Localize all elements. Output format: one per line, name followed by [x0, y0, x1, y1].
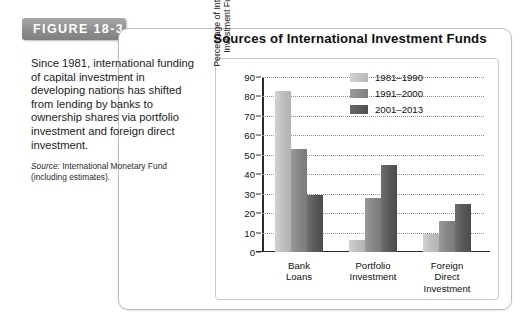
y-tick-mark — [256, 77, 261, 78]
y-tick-label: 80 — [244, 91, 255, 102]
y-tick-mark — [256, 135, 261, 136]
figure-number-label: FIGURE 18-3 — [33, 22, 124, 36]
bar — [365, 198, 381, 252]
caption-text: Since 1981, international funding of cap… — [31, 57, 199, 152]
y-tick-mark — [256, 174, 261, 175]
y-tick-mark — [256, 252, 261, 253]
legend-item: 2001–2013 — [350, 104, 423, 115]
bar — [307, 195, 323, 252]
legend-label: 2001–2013 — [375, 104, 423, 115]
bar — [349, 240, 365, 252]
bar — [455, 204, 471, 252]
y-tick-label: 60 — [244, 130, 255, 141]
y-axis-title: Percentage of International Investment F… — [212, 0, 228, 89]
source-label: Source: — [31, 161, 60, 171]
y-tick-label: 70 — [244, 110, 255, 121]
legend-item: 1981–1990 — [350, 72, 423, 83]
y-tick-label: 40 — [244, 169, 255, 180]
legend-item: 1991–2000 — [350, 88, 423, 99]
chart-card: Percentage of International Investment F… — [215, 58, 499, 300]
bar — [439, 221, 455, 252]
caption-block: Since 1981, international funding of cap… — [31, 57, 199, 182]
chart-title: Sources of International Investment Fund… — [200, 31, 500, 46]
bar — [291, 149, 307, 252]
y-tick-mark — [256, 193, 261, 194]
y-tick-mark — [256, 96, 261, 97]
y-tick-mark — [256, 154, 261, 155]
x-axis-label: Foreign Direct Investment — [399, 260, 495, 294]
y-tick-label: 0 — [250, 247, 255, 258]
bar-group: Bank Loans — [262, 77, 336, 252]
y-tick-label: 90 — [244, 72, 255, 83]
legend-label: 1991–2000 — [375, 88, 423, 99]
y-tick-label: 30 — [244, 188, 255, 199]
y-tick-mark — [256, 213, 261, 214]
legend-label: 1981–1990 — [375, 72, 423, 83]
bar — [381, 165, 397, 252]
y-tick-label: 10 — [244, 227, 255, 238]
bar — [423, 234, 439, 252]
y-tick-label: 50 — [244, 149, 255, 160]
chart-legend: 1981–19901991–20002001–2013 — [350, 72, 423, 115]
y-tick-mark — [256, 115, 261, 116]
legend-swatch-icon — [350, 89, 368, 98]
legend-swatch-icon — [350, 73, 368, 82]
figure-number-tab: FIGURE 18-3 — [22, 18, 126, 40]
source-note: Source: International Monetary Fund (inc… — [31, 161, 199, 182]
bar — [275, 91, 291, 252]
y-tick-label: 20 — [244, 208, 255, 219]
y-tick-mark — [256, 232, 261, 233]
legend-swatch-icon — [350, 105, 368, 114]
